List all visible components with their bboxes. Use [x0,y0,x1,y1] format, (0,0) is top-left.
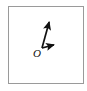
vector-canvas [0,0,87,91]
vector-group [42,22,54,48]
origin-label: O [33,47,41,59]
vector-up-arrow [42,22,49,48]
vector-right-arrow [42,45,54,48]
figure-root: O [0,0,87,91]
